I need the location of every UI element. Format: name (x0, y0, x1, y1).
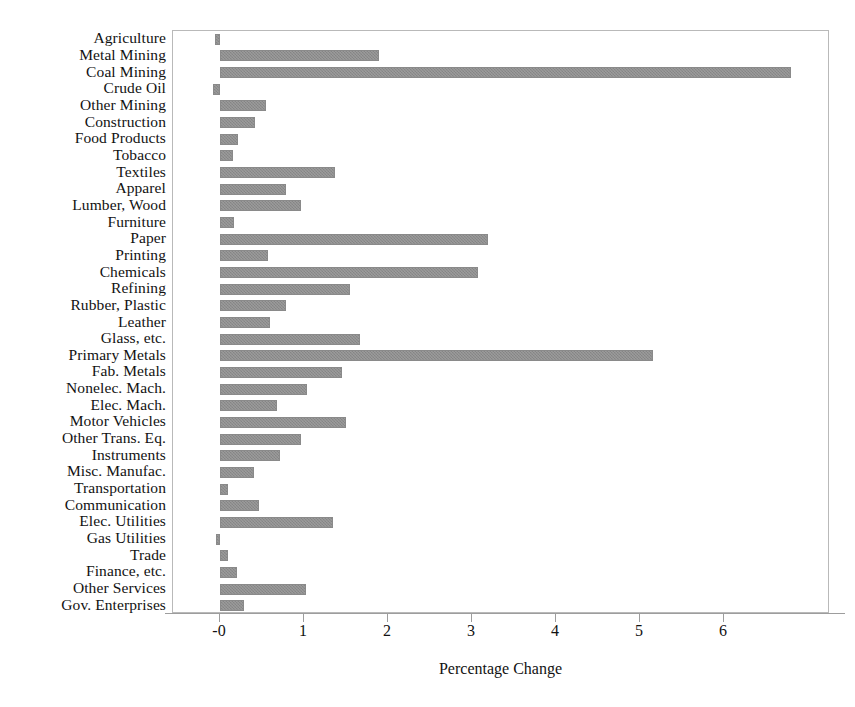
bar (220, 384, 307, 395)
x-tick (555, 614, 556, 622)
bar (220, 284, 350, 295)
x-axis-line (165, 613, 845, 614)
bar (220, 467, 254, 478)
bar (220, 267, 478, 278)
bar (220, 167, 335, 178)
bar (220, 517, 333, 528)
bar (220, 234, 488, 245)
bar (220, 117, 255, 128)
category-axis-labels: AgricultureMetal MiningCoal MiningCrude … (0, 30, 166, 613)
bar (220, 350, 653, 361)
category-label: Furniture (0, 214, 166, 229)
bar (220, 584, 306, 595)
x-tick-label: -0 (199, 622, 239, 640)
category-label: Finance, etc. (0, 563, 166, 578)
category-label: Other Mining (0, 97, 166, 112)
category-label: Chemicals (0, 264, 166, 279)
category-label: Construction (0, 114, 166, 129)
bar (216, 534, 220, 545)
bars-container (173, 31, 828, 612)
bar (220, 434, 301, 445)
category-label: Motor Vehicles (0, 413, 166, 428)
bar (220, 500, 259, 511)
bar (220, 400, 277, 411)
bar (220, 317, 270, 328)
category-label: Instruments (0, 447, 166, 462)
category-label: Trade (0, 547, 166, 562)
category-label: Agriculture (0, 30, 166, 45)
x-tick-label: 6 (703, 622, 743, 640)
bar (220, 567, 237, 578)
chart-figure: AgricultureMetal MiningCoal MiningCrude … (0, 0, 855, 707)
bar (220, 367, 342, 378)
bar (220, 550, 228, 561)
category-label: Communication (0, 497, 166, 512)
category-label: Nonelec. Mach. (0, 380, 166, 395)
category-label: Textiles (0, 164, 166, 179)
x-tick-label: 2 (367, 622, 407, 640)
x-tick-label: 5 (619, 622, 659, 640)
category-label: Paper (0, 230, 166, 245)
x-tick (723, 614, 724, 622)
bar (215, 34, 220, 45)
bar (220, 67, 791, 78)
bar (220, 484, 228, 495)
bar (220, 134, 238, 145)
category-label: Gas Utilities (0, 530, 166, 545)
category-label: Tobacco (0, 147, 166, 162)
bar (220, 600, 244, 611)
bar (220, 450, 280, 461)
x-tick (639, 614, 640, 622)
category-label: Leather (0, 314, 166, 329)
bar (220, 50, 379, 61)
x-tick-label: 4 (535, 622, 575, 640)
bar (220, 250, 268, 261)
x-tick (471, 614, 472, 622)
category-label: Elec. Utilities (0, 513, 166, 528)
category-label: Elec. Mach. (0, 397, 166, 412)
bar (220, 217, 234, 228)
x-axis-title: Percentage Change (172, 660, 829, 678)
bar (220, 100, 266, 111)
category-label: Transportation (0, 480, 166, 495)
category-label: Gov. Enterprises (0, 597, 166, 612)
category-label: Food Products (0, 130, 166, 145)
category-label: Coal Mining (0, 64, 166, 79)
category-label: Apparel (0, 180, 166, 195)
x-tick-label: 3 (451, 622, 491, 640)
x-tick (303, 614, 304, 622)
bar (220, 184, 286, 195)
category-label: Misc. Manufac. (0, 463, 166, 478)
x-tick (387, 614, 388, 622)
bar (220, 417, 346, 428)
category-label: Rubber, Plastic (0, 297, 166, 312)
bar (213, 84, 220, 95)
category-label: Lumber, Wood (0, 197, 166, 212)
bar (220, 334, 360, 345)
category-label: Primary Metals (0, 347, 166, 362)
category-label: Glass, etc. (0, 330, 166, 345)
x-tick-label: 1 (283, 622, 323, 640)
x-tick (219, 614, 220, 622)
bar (220, 200, 301, 211)
bar (220, 150, 233, 161)
category-label: Other Services (0, 580, 166, 595)
category-label: Fab. Metals (0, 363, 166, 378)
bar (220, 300, 286, 311)
plot-area (172, 30, 829, 613)
category-label: Crude Oil (0, 80, 166, 95)
category-label: Refining (0, 280, 166, 295)
category-label: Other Trans. Eq. (0, 430, 166, 445)
category-label: Printing (0, 247, 166, 262)
category-label: Metal Mining (0, 47, 166, 62)
